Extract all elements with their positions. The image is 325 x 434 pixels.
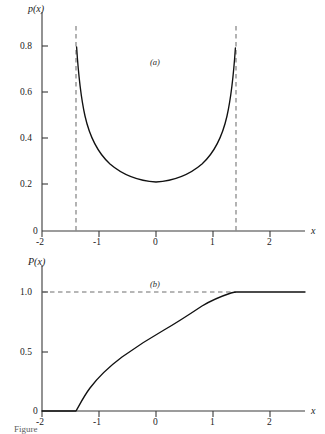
panel-b-ylabel-origin: 0 bbox=[33, 406, 38, 416]
panel-b-tag: (b) bbox=[150, 279, 160, 289]
panel-b-x-axis-label: x bbox=[310, 405, 316, 416]
panel-b-ylabel-1.0: 1.0 bbox=[20, 287, 32, 297]
panel-b-ylabel-0.5: 0.5 bbox=[20, 347, 32, 357]
panel-b-cdf-curve bbox=[42, 292, 305, 411]
panel-b-y-axis-label: P(x) bbox=[27, 256, 46, 268]
figure-caption: Figure bbox=[14, 424, 314, 434]
